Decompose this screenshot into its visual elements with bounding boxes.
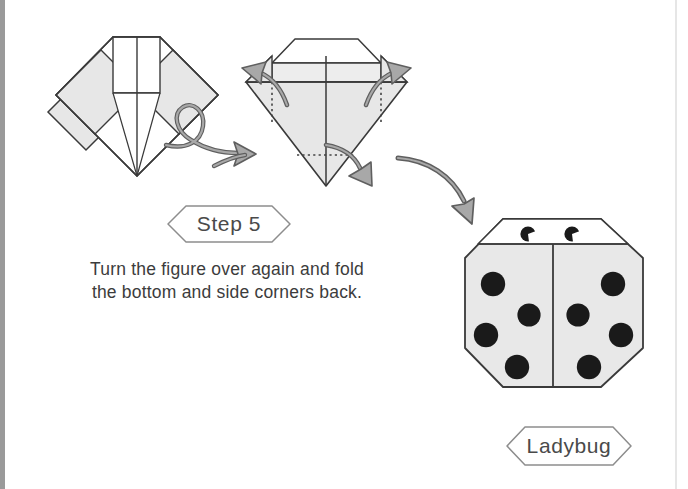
ladybug-spot [566, 303, 589, 326]
ladybug-spot [577, 355, 601, 379]
origami-instruction-page: Step 5 Turn the figure over again and fo… [0, 0, 688, 489]
ladybug-spot [517, 303, 540, 326]
step-banner: Step 5 [168, 206, 290, 242]
book-binding-edge [0, 0, 5, 489]
result-banner-label: Ladybug [527, 434, 612, 457]
instruction-line-1: Turn the figure over again and fold [90, 259, 364, 279]
ladybug-spot [474, 323, 498, 347]
ladybug-spot [481, 272, 505, 296]
result-banner: Ladybug [507, 427, 631, 465]
diagram-canvas: Step 5 Turn the figure over again and fo… [0, 0, 688, 489]
step-banner-label: Step 5 [197, 212, 261, 235]
instruction-line-2: the bottom and side corners back. [92, 282, 362, 302]
ladybug-spot [505, 355, 529, 379]
ladybug-head [478, 219, 628, 244]
ladybug-spot [601, 272, 625, 296]
ladybug-spot [609, 323, 633, 347]
origami-figure-ladybug [465, 219, 643, 387]
